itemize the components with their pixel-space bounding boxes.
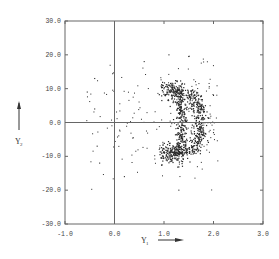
data-point — [110, 65, 111, 66]
data-point — [113, 146, 114, 147]
data-point — [213, 65, 214, 66]
data-point — [178, 105, 179, 106]
data-point — [182, 127, 183, 128]
data-point — [161, 153, 162, 154]
data-point — [103, 174, 104, 175]
data-point — [177, 87, 178, 88]
data-point — [203, 112, 204, 113]
data-point — [162, 82, 163, 83]
data-point — [205, 115, 206, 116]
data-point — [187, 140, 188, 141]
data-point — [191, 147, 192, 148]
data-point — [170, 161, 171, 162]
data-point — [207, 61, 208, 62]
data-point — [166, 155, 167, 156]
data-point — [176, 102, 177, 103]
data-point — [183, 93, 184, 94]
data-point — [178, 148, 179, 149]
data-point — [162, 150, 163, 151]
data-point — [197, 128, 198, 129]
data-point — [207, 140, 208, 141]
data-point — [203, 132, 204, 133]
data-point — [187, 107, 188, 108]
data-point — [198, 150, 199, 151]
data-point — [189, 108, 190, 109]
data-point — [172, 95, 173, 96]
data-point — [168, 89, 169, 90]
data-point — [161, 95, 162, 96]
data-point — [200, 141, 201, 142]
data-point — [180, 101, 181, 102]
data-point — [165, 94, 166, 95]
data-point — [194, 149, 195, 150]
data-point — [198, 98, 199, 99]
data-point — [182, 120, 183, 121]
data-point — [193, 91, 194, 92]
data-point — [139, 102, 140, 103]
data-point — [169, 157, 170, 158]
data-point — [173, 92, 174, 93]
data-point — [176, 147, 177, 148]
data-point — [176, 96, 177, 97]
data-point — [183, 130, 184, 131]
data-point — [191, 104, 192, 105]
data-point — [183, 99, 184, 100]
data-point — [162, 142, 163, 143]
data-point — [203, 129, 204, 130]
data-point — [193, 111, 194, 112]
data-point — [178, 108, 179, 109]
data-point — [190, 154, 191, 155]
data-point — [186, 109, 187, 110]
data-point — [217, 160, 218, 161]
data-point — [161, 87, 162, 88]
data-point — [168, 159, 169, 160]
data-point — [119, 110, 120, 111]
data-point — [181, 156, 182, 157]
data-point — [169, 145, 170, 146]
data-point — [199, 131, 200, 132]
data-point — [176, 149, 177, 150]
data-point — [159, 154, 160, 155]
data-point — [203, 130, 204, 131]
data-point — [159, 148, 160, 149]
data-point — [182, 149, 183, 150]
data-point — [181, 138, 182, 139]
data-point — [188, 56, 189, 57]
data-point — [161, 100, 162, 101]
data-point — [178, 156, 179, 157]
data-point — [182, 99, 183, 100]
data-point — [177, 110, 178, 111]
data-point — [179, 114, 180, 115]
data-point — [148, 88, 149, 89]
data-point — [154, 155, 155, 156]
data-point — [162, 148, 163, 149]
data-point — [167, 150, 168, 151]
data-point — [183, 111, 184, 112]
data-point — [196, 96, 197, 97]
data-point — [175, 155, 176, 156]
data-point — [186, 117, 187, 118]
data-point — [162, 145, 163, 146]
data-point — [182, 94, 183, 95]
data-point — [170, 150, 171, 151]
data-point — [191, 90, 192, 91]
data-point — [128, 100, 129, 101]
data-point — [204, 146, 205, 147]
data-point — [195, 153, 196, 154]
data-point — [182, 125, 183, 126]
data-point — [182, 113, 183, 114]
data-point — [139, 107, 140, 108]
data-point — [163, 94, 164, 95]
data-point — [177, 81, 178, 82]
x-tick-label: -1.0 — [57, 231, 73, 238]
data-point — [203, 127, 204, 128]
data-point — [179, 87, 180, 88]
data-point — [186, 121, 187, 122]
data-point — [205, 105, 206, 106]
data-point — [190, 100, 191, 101]
data-point — [192, 125, 193, 126]
data-point — [186, 129, 187, 130]
data-point — [181, 89, 182, 90]
data-point — [172, 162, 173, 163]
data-point — [200, 96, 201, 97]
